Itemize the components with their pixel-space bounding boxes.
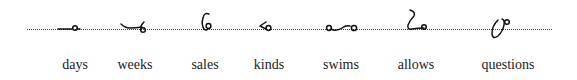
label-kinds: kinds bbox=[254, 57, 284, 73]
label-questions: questions bbox=[482, 57, 535, 73]
sales-outline-icon bbox=[202, 14, 211, 31]
label-swims: swims bbox=[323, 57, 359, 73]
questions-outline-icon bbox=[492, 19, 509, 37]
label-weeks: weeks bbox=[118, 57, 153, 73]
label-allows: allows bbox=[398, 57, 435, 73]
label-days: days bbox=[62, 57, 88, 73]
allows-outline-icon bbox=[408, 10, 426, 29]
weeks-outline-icon bbox=[121, 22, 145, 32]
days-outline-icon bbox=[58, 26, 80, 31]
shorthand-diagram: days weeks sales kinds swims allows ques… bbox=[0, 0, 577, 80]
label-sales: sales bbox=[191, 57, 218, 73]
kinds-outline-icon bbox=[260, 22, 271, 30]
swims-outline-icon bbox=[327, 25, 357, 30]
